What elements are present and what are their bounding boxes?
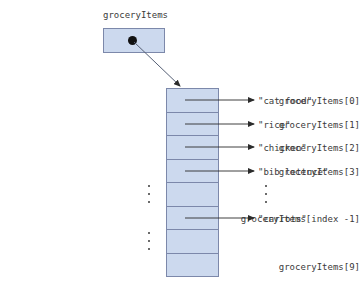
pointer-variable-label: groceryItems [103, 10, 165, 20]
array-cell-6 [167, 230, 218, 254]
array-pointer-diagram: groceryItems groceryItems[0] groceryItem… [0, 0, 360, 295]
array-container [166, 88, 219, 277]
index-label-9: groceryItems[9] [200, 262, 360, 272]
array-cell-4 [167, 183, 218, 207]
right-ellipsis-icon [262, 185, 270, 203]
value-label-0: "cat food" [258, 96, 312, 106]
value-label-3: "bib lettuce" [258, 167, 328, 177]
pointer-dot-icon [128, 36, 137, 45]
left-ellipsis-lower-icon [145, 232, 153, 250]
value-label-2: "chicken" [258, 143, 307, 153]
left-ellipsis-upper-icon [145, 185, 153, 203]
value-label-carrots: "carrots" [258, 214, 307, 224]
value-label-1: "rice" [258, 120, 291, 130]
